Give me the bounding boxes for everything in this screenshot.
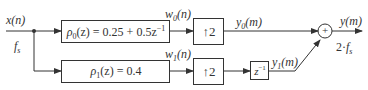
input-rate: fs [14,40,20,55]
polyphase-interpolator-diagram: x(n) fs ρ0(z) = 0.25 + 0.5z−1 ρ1(z) = 0.… [0,0,368,90]
output-label: y(m) [340,15,362,27]
branch-line [34,31,61,71]
w0-label: w0(n) [165,8,191,23]
upsampler0-label: ↑2 [194,25,224,38]
upsampler1-label: ↑2 [194,65,224,78]
adder-label: + [318,25,332,36]
w1-label: w1(n) [165,48,191,63]
delay-label: z−1 [251,65,269,77]
filter1-label: ρ1(z) = 0.4 [62,65,170,80]
y1-label: y1(m) [272,56,298,71]
filter0-label: ρ0(z) = 0.25 + 0.5z−1 [62,25,170,41]
y0-label: y0(m) [236,16,262,31]
input-label: x(n) [6,14,25,26]
output-rate: 2·fs [336,41,352,56]
junction-dot [32,29,36,33]
